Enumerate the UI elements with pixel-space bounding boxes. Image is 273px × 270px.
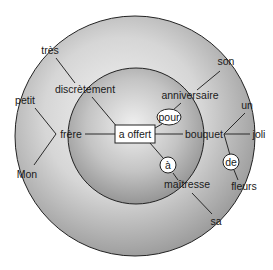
sentence-tree-diagram: a offert pour à de très discrètement pet… (0, 0, 273, 270)
word-mon: Mon (17, 168, 38, 180)
word-frere: frère (60, 128, 82, 140)
word-sa: sa (210, 215, 221, 227)
word-maitresse: maîtresse (164, 178, 210, 190)
word-bouquet: bouquet (185, 128, 223, 140)
a-label: à (165, 159, 171, 171)
word-son: son (218, 55, 235, 67)
word-joli: joli (252, 128, 266, 140)
word-anniversaire: anniversaire (161, 89, 218, 101)
de-label: de (225, 156, 237, 168)
word-fleurs: fleurs (231, 180, 257, 192)
word-tres: très (41, 44, 59, 56)
word-petit: petit (15, 94, 35, 106)
word-discretement: discrètement (55, 83, 115, 95)
verb-label: a offert (119, 128, 152, 140)
pour-label: pour (158, 111, 180, 123)
word-un: un (241, 99, 253, 111)
